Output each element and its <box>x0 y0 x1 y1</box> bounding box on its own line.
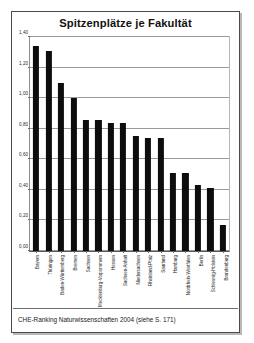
bar-slot <box>192 37 204 251</box>
bar-slot <box>130 37 142 251</box>
x-axis-category-label: Sachsen-Anhalt <box>123 255 128 286</box>
y-axis-tick-label: 0,00 <box>19 244 28 249</box>
x-axis-category-label: Hamburg <box>173 255 178 273</box>
x-axis-category-label: Nordrhein-Westfalen <box>186 255 191 295</box>
x-axis-tick-mark <box>49 251 50 253</box>
x-axis-tick-mark <box>98 251 99 253</box>
x-axis-tick-mark <box>111 251 112 253</box>
caption-divider <box>13 308 238 309</box>
x-axis-tick-mark <box>61 251 62 253</box>
x-axis-tick-mark <box>86 251 87 253</box>
x-axis-category-label: Bremen <box>73 255 78 270</box>
bar <box>170 173 176 251</box>
plot-area: 0,000,200,400,600,801,001,201,40 <box>29 36 230 252</box>
chart-figure-inner: Spitzenplätze je Fakultät 0,000,200,400,… <box>12 12 239 332</box>
x-axis-tick-mark <box>123 251 124 253</box>
x-axis-category-label: Bayern <box>35 255 40 269</box>
bar <box>133 136 139 251</box>
bar <box>33 46 39 251</box>
bar <box>182 173 188 251</box>
x-axis-tick-mark <box>173 251 174 253</box>
bar <box>83 120 89 251</box>
bar-slot <box>217 37 229 251</box>
x-axis-category-label: Niedersachsen <box>136 255 141 284</box>
x-axis-label-slot: Nordrhein-Westfalen <box>180 254 193 326</box>
bar-slot <box>55 37 67 251</box>
x-axis-category-label: Rheinland-Pfalz <box>148 255 153 286</box>
bar-slot <box>30 37 42 251</box>
bar <box>158 138 164 251</box>
bar <box>70 98 76 251</box>
x-axis-category-label: Thüringen <box>48 255 53 275</box>
x-axis-tick-mark <box>136 251 137 253</box>
x-axis-tick-mark <box>185 251 186 253</box>
y-axis-tick-label: 0,20 <box>19 213 28 218</box>
bars-layer <box>30 37 229 251</box>
y-axis-tick-label: 0,40 <box>19 182 28 187</box>
bar-slot <box>67 37 79 251</box>
y-axis-tick-label: 1,20 <box>19 60 28 65</box>
bar-slot <box>92 37 104 251</box>
x-axis-label-slot: Schleswig-Holstein <box>205 254 218 326</box>
bar-slot <box>105 37 117 251</box>
x-axis-label-slot: Brandenburg <box>217 254 230 326</box>
bar <box>207 188 213 251</box>
y-axis-tick-label: 1,00 <box>19 91 28 96</box>
bar-slot <box>167 37 179 251</box>
y-axis-tick-label: 1,40 <box>19 30 28 35</box>
x-axis-tick-mark <box>198 251 199 253</box>
x-axis-category-label: Baden-Württemberg <box>60 255 65 295</box>
bar <box>46 51 52 251</box>
bar-slot <box>80 37 92 251</box>
bar-slot <box>179 37 191 251</box>
x-axis-tick-mark <box>74 251 75 253</box>
bar <box>145 138 151 251</box>
bar <box>95 120 101 251</box>
chart-figure-frame: Spitzenplätze je Fakultät 0,000,200,400,… <box>11 11 240 333</box>
y-axis-tick-label: 0,80 <box>19 121 28 126</box>
bar-slot <box>142 37 154 251</box>
x-axis-category-label: Hessen <box>111 255 116 270</box>
x-axis-tick-mark <box>210 251 211 253</box>
bar-slot <box>204 37 216 251</box>
x-axis-category-label: Sachsen <box>86 255 91 272</box>
figure-caption: CHE-Ranking Naturwissenschaften 2004 (si… <box>18 315 176 324</box>
x-axis-tick-mark <box>36 251 37 253</box>
bar <box>58 83 64 251</box>
bar-slot <box>154 37 166 251</box>
x-axis-category-label: Mecklenburg-Vorpommern <box>98 255 103 307</box>
x-axis-category-label: Schleswig-Holstein <box>211 255 216 292</box>
x-axis-tick-mark <box>161 251 162 253</box>
x-axis-category-label: Berlin <box>199 255 204 266</box>
x-axis-tick-mark <box>223 251 224 253</box>
bar-slot <box>117 37 129 251</box>
bar <box>220 225 226 251</box>
figure-page: Spitzenplätze je Fakultät 0,000,200,400,… <box>0 0 254 343</box>
y-axis-tick-label: 0,60 <box>19 152 28 157</box>
bar-slot <box>42 37 54 251</box>
bar <box>120 123 126 251</box>
scan-edge-strip <box>0 0 254 9</box>
x-axis-category-label: Saarland <box>161 255 166 273</box>
bar <box>195 185 201 251</box>
x-axis-tick-mark <box>148 251 149 253</box>
chart-title: Spitzenplätze je Fakultät <box>12 17 239 30</box>
x-axis-label-slot: Berlin <box>192 254 205 326</box>
x-axis-category-label: Brandenburg <box>224 255 229 280</box>
plot-wrapper: 0,000,200,400,600,801,001,201,40 <box>29 36 230 252</box>
bar <box>108 123 114 251</box>
